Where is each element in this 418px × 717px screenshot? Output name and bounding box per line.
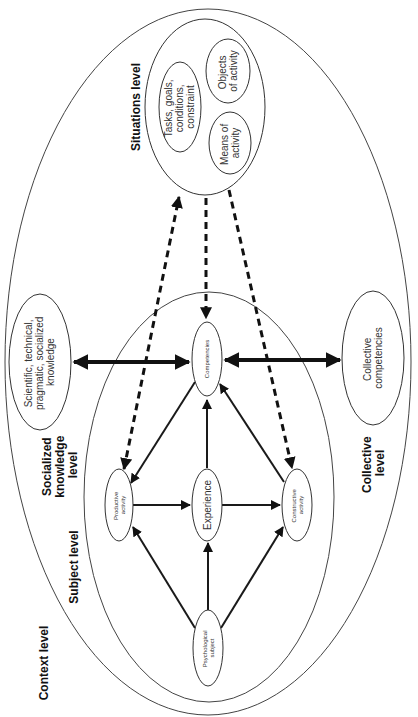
experience-label: Experience [202,480,213,530]
situations-level-label: Situations level [129,63,143,151]
dashed-arrow-productive-situations [124,197,179,469]
collective-level-label: Collective level [360,433,387,493]
dashed-arrow-situations-constructive [229,190,292,468]
objects-label: Objects of activity [217,50,239,92]
constructive-activity-node [282,469,312,541]
context-level-label: Context level [37,626,51,701]
arrow-constructive-competencies [220,384,284,482]
productive-activity-node [105,469,133,541]
arrow-competencies-productive [131,382,195,483]
collective-competencies-label: Collective competencies [362,327,384,389]
subject-level-label: Subject level [67,530,81,603]
tasks-label: Tasks, goals, conditions, constraint [163,77,196,138]
competency-model-diagram: Situations level Socialized knowledge le… [0,0,418,717]
socialized-level-label: Socialized knowledge level [40,432,80,497]
psychological-subject-node [193,610,223,686]
arrow-psychological-constructive [221,527,283,628]
arrow-psychological-productive [133,527,195,628]
competencies-label: Competencies [204,340,210,378]
